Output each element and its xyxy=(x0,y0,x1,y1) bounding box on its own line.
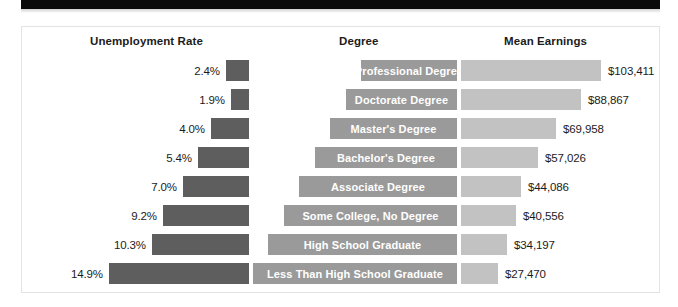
unemployment-rate-bar xyxy=(109,263,249,284)
earnings-cell: $57,026 xyxy=(461,147,661,168)
mean-earnings-label: $34,197 xyxy=(514,239,555,251)
earnings-cell: $88,867 xyxy=(461,89,661,110)
unemployment-rate-bar xyxy=(163,205,249,226)
column-header-unemployment-rate: Unemployment Rate xyxy=(90,35,203,47)
unemployment-cell: 9.2% xyxy=(22,205,249,226)
column-header-mean-earnings: Mean Earnings xyxy=(504,35,587,47)
degree-cell: Professional Degree xyxy=(253,60,457,81)
degree-bar: Some College, No Degree xyxy=(284,205,457,226)
unemployment-rate-label: 10.3% xyxy=(114,239,146,251)
unemployment-rate-bar xyxy=(198,147,249,168)
top-black-banner xyxy=(21,0,660,9)
unemployment-rate-label: 9.2% xyxy=(131,210,157,222)
unemployment-cell: 14.9% xyxy=(22,263,249,284)
mean-earnings-label: $103,411 xyxy=(608,65,654,77)
unemployment-rate-label: 4.0% xyxy=(179,123,205,135)
unemployment-cell: 2.4% xyxy=(22,60,249,81)
chart-row: 7.0%Associate Degree$44,086 xyxy=(22,173,659,202)
unemployment-cell: 10.3% xyxy=(22,234,249,255)
mean-earnings-label: $40,556 xyxy=(523,210,564,222)
mean-earnings-bar xyxy=(461,176,521,197)
mean-earnings-bar xyxy=(461,234,507,255)
mean-earnings-bar xyxy=(461,205,516,226)
unemployment-rate-label: 5.4% xyxy=(166,152,192,164)
unemployment-rate-bar xyxy=(231,89,249,110)
column-header-degree: Degree xyxy=(339,35,379,47)
unemployment-cell: 1.9% xyxy=(22,89,249,110)
unemployment-rate-label: 7.0% xyxy=(151,181,177,193)
chart-row: 4.0%Master's Degree$69,958 xyxy=(22,115,659,144)
chart-row: 9.2%Some College, No Degree$40,556 xyxy=(22,202,659,231)
earnings-cell: $69,958 xyxy=(461,118,661,139)
unemployment-rate-bar xyxy=(183,176,249,197)
unemployment-rate-bar xyxy=(226,60,249,81)
degree-cell: Doctorate Degree xyxy=(253,89,457,110)
chart-row: 5.4%Bachelor's Degree$57,026 xyxy=(22,144,659,173)
mean-earnings-label: $88,867 xyxy=(588,94,629,106)
mean-earnings-label: $44,086 xyxy=(528,181,569,193)
unemployment-cell: 4.0% xyxy=(22,118,249,139)
mean-earnings-label: $57,026 xyxy=(545,152,586,164)
mean-earnings-bar xyxy=(461,89,581,110)
degree-bar: Master's Degree xyxy=(330,118,457,139)
chart-rows: 2.4%Professional Degree$103,4111.9%Docto… xyxy=(22,57,659,289)
earnings-cell: $34,197 xyxy=(461,234,661,255)
earnings-cell: $44,086 xyxy=(461,176,661,197)
degree-bar: Less Than High School Graduate xyxy=(253,263,457,284)
mean-earnings-bar xyxy=(461,118,556,139)
degree-cell: High School Graduate xyxy=(253,234,457,255)
degree-bar: Professional Degree xyxy=(361,60,457,81)
degree-cell: Associate Degree xyxy=(253,176,457,197)
unemployment-cell: 5.4% xyxy=(22,147,249,168)
unemployment-rate-bar xyxy=(152,234,249,255)
mean-earnings-bar xyxy=(461,263,498,284)
degree-cell: Bachelor's Degree xyxy=(253,147,457,168)
mean-earnings-bar xyxy=(461,147,538,168)
chart-row: 10.3%High School Graduate$34,197 xyxy=(22,231,659,260)
unemployment-cell: 7.0% xyxy=(22,176,249,197)
unemployment-rate-label: 2.4% xyxy=(194,65,220,77)
mean-earnings-label: $27,470 xyxy=(505,268,546,280)
degree-bar: Bachelor's Degree xyxy=(315,147,457,168)
degree-bar: High School Graduate xyxy=(268,234,457,255)
unemployment-rate-label: 14.9% xyxy=(71,268,103,280)
chart-row: 2.4%Professional Degree$103,411 xyxy=(22,57,659,86)
degree-cell: Some College, No Degree xyxy=(253,205,457,226)
degree-cell: Less Than High School Graduate xyxy=(253,263,457,284)
earnings-cell: $27,470 xyxy=(461,263,661,284)
mean-earnings-label: $69,958 xyxy=(563,123,604,135)
chart-row: 14.9%Less Than High School Graduate$27,4… xyxy=(22,260,659,289)
earnings-cell: $103,411 xyxy=(461,60,661,81)
chart-row: 1.9%Doctorate Degree$88,867 xyxy=(22,86,659,115)
degree-bar: Doctorate Degree xyxy=(346,89,457,110)
earnings-cell: $40,556 xyxy=(461,205,661,226)
unemployment-rate-label: 1.9% xyxy=(199,94,225,106)
column-headers: Unemployment Rate Degree Mean Earnings xyxy=(22,35,659,55)
degree-bar: Associate Degree xyxy=(299,176,457,197)
degree-cell: Master's Degree xyxy=(253,118,457,139)
education-earnings-chart-card: Unemployment Rate Degree Mean Earnings 2… xyxy=(21,26,660,293)
unemployment-rate-bar xyxy=(211,118,249,139)
mean-earnings-bar xyxy=(461,60,601,81)
